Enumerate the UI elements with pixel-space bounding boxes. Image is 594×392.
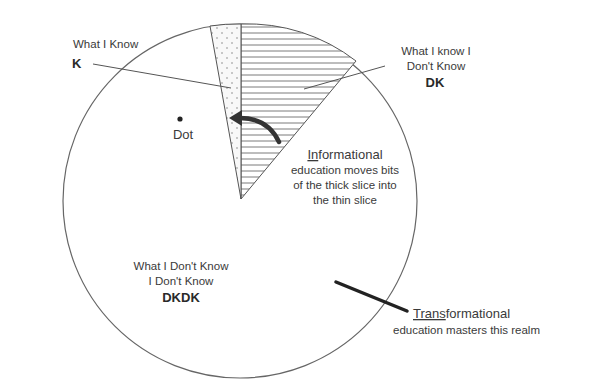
informational-underlined: In — [307, 147, 318, 162]
informational-line4: the thin slice — [313, 194, 377, 206]
dot-label: Dot — [173, 127, 194, 142]
informational-line3: of the thick slice into — [293, 179, 397, 191]
knowledge-pie-diagram: What I Know K What I know I Don't Know D… — [0, 0, 594, 392]
transformational-heading: Transformational — [413, 306, 510, 321]
transformational-underlined: Trans — [413, 306, 446, 321]
dot-marker — [177, 116, 182, 121]
informational-heading: Informational — [307, 147, 382, 162]
dkdk-abbr: DKDK — [162, 290, 200, 305]
informational-rest: formational — [318, 147, 382, 162]
dk-title-line2: Don't Know — [407, 60, 466, 72]
k-abbr: K — [72, 56, 82, 71]
dkdk-title-line1: What I Don't Know — [134, 260, 230, 272]
dk-title-line1: What I know I — [401, 45, 471, 57]
k-title: What I Know — [73, 38, 139, 50]
transformational-rest: formational — [446, 306, 510, 321]
informational-line2: education moves bits — [291, 164, 399, 176]
dkdk-title-line2: I Don't Know — [149, 275, 215, 287]
dk-abbr: DK — [426, 75, 445, 90]
transformational-line2: education masters this realm — [393, 324, 540, 336]
